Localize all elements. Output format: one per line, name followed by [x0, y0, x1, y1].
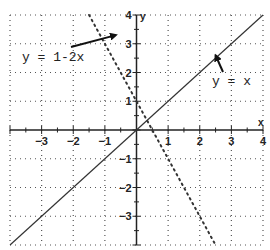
x-tick-label: −3	[35, 135, 48, 147]
y-tick-label: 1	[125, 95, 131, 107]
x-axis-label: x	[258, 117, 264, 128]
x-tick-label: 1	[165, 135, 171, 147]
x-tick-label: 4	[260, 135, 267, 147]
y-tick-label: 3	[125, 38, 131, 50]
y-axis-label: y	[140, 11, 146, 22]
arrow-icon	[216, 55, 223, 72]
y-tick-label: 4	[125, 9, 132, 21]
y-tick-label: 2	[125, 67, 131, 79]
annotation-y-equals-x: y = x	[212, 74, 251, 89]
x-tick-label: −1	[99, 135, 112, 147]
x-tick-label: 2	[197, 135, 203, 147]
x-tick-label: 3	[228, 135, 234, 147]
y-tick-label: −1	[119, 153, 132, 165]
arrow-icon	[71, 35, 116, 47]
graph-canvas: −3−2−112344321−1−2−3 y = 1-2xy = x x y	[0, 0, 270, 250]
y-tick-label: −2	[119, 182, 132, 194]
annotation-y-equals-1-minus-2x: y = 1-2x	[22, 50, 85, 65]
y-tick-label: −3	[119, 210, 132, 222]
x-tick-label: −2	[67, 135, 80, 147]
